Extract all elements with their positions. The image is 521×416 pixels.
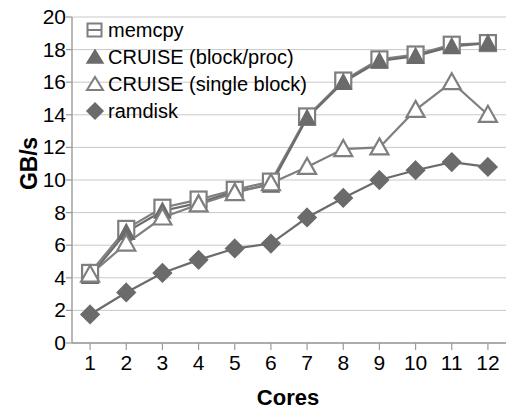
x-axis-tick-label: 12 (468, 352, 508, 373)
legend-item-cruise-single-block[interactable]: CRUISE (single block) (84, 70, 307, 97)
marker-open-triangle (298, 158, 316, 174)
y-axis-tick-label: 2 (20, 299, 66, 320)
x-axis-tick-label: 10 (396, 352, 436, 373)
x-axis-tick-label: 4 (179, 352, 219, 373)
y-axis-tick-label: 0 (20, 332, 66, 353)
y-axis-tick-label: 18 (20, 39, 66, 60)
legend-marker-filled-diamond-icon (84, 100, 106, 122)
marker-filled-diamond (153, 264, 171, 282)
y-axis-tick-label: 6 (20, 234, 66, 255)
legend-label: memcpy (108, 20, 184, 40)
y-axis-tick-label: 16 (20, 71, 66, 92)
series-ramdisk (90, 162, 488, 314)
marker-filled-diamond (443, 153, 461, 171)
marker-filled-diamond (226, 239, 244, 257)
x-axis-tick-label: 2 (106, 352, 146, 373)
legend-triangle (87, 77, 103, 90)
marker-filled-diamond (479, 158, 497, 176)
legend-triangle (87, 50, 103, 63)
legend-label: ramdisk (108, 101, 178, 121)
legend-item-memcpy[interactable]: memcpy (84, 16, 307, 43)
y-axis-title: GB/s (16, 119, 43, 209)
x-axis-tick-label: 11 (432, 352, 472, 373)
marker-filled-diamond (81, 305, 99, 323)
series-line (90, 162, 488, 314)
legend-item-ramdisk[interactable]: ramdisk (84, 97, 307, 124)
y-axis-tick-label: 4 (20, 267, 66, 288)
x-axis-title: Cores (72, 385, 504, 411)
legend-diamond (87, 103, 103, 119)
marker-filled-diamond (190, 251, 208, 269)
chart-container: 02468101214161820 GB/s Cores memcpyCRUIS… (0, 0, 521, 416)
x-axis-tick-label: 9 (359, 352, 399, 373)
x-axis-tick-label: 1 (70, 352, 110, 373)
legend-marker-open-triangle-icon (84, 73, 106, 95)
marker-filled-diamond (262, 235, 280, 253)
marker-filled-diamond (117, 283, 135, 301)
legend-marker-open-square-icon (84, 19, 106, 41)
marker-filled-diamond (370, 171, 388, 189)
legend-label: CRUISE (single block) (108, 74, 307, 94)
legend-item-cruise-block-proc[interactable]: CRUISE (block/proc) (84, 43, 307, 70)
legend-label: CRUISE (block/proc) (108, 47, 294, 67)
x-axis-tick-label: 5 (215, 352, 255, 373)
y-axis-tick-label: 20 (20, 6, 66, 27)
marker-filled-diamond (298, 208, 316, 226)
marker-open-triangle (443, 73, 461, 89)
marker-filled-diamond (407, 161, 425, 179)
series-markers (81, 153, 497, 323)
x-axis-tick-label: 6 (251, 352, 291, 373)
marker-filled-diamond (334, 189, 352, 207)
marker-open-triangle (407, 101, 425, 117)
legend-marker-filled-triangle-icon (84, 46, 106, 68)
x-axis-tick-label: 8 (323, 352, 363, 373)
x-axis-tick-label: 7 (287, 352, 327, 373)
chart-legend: memcpyCRUISE (block/proc)CRUISE (single … (84, 16, 307, 124)
x-axis-tick-label: 3 (142, 352, 182, 373)
